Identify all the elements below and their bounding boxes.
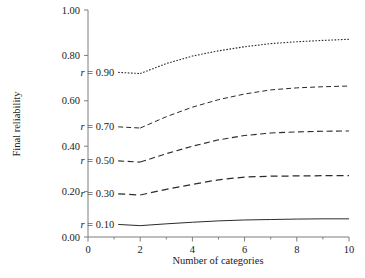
curve-r-0_5 bbox=[140, 131, 349, 162]
series-label-value: 0.70 bbox=[96, 121, 114, 132]
y-axis-title: Final reliability bbox=[11, 91, 22, 157]
series-label-equals: = bbox=[85, 219, 96, 230]
x-tick-label: 10 bbox=[344, 244, 355, 255]
y-tick-label: 0.40 bbox=[62, 141, 80, 152]
y-tick-label: 0.60 bbox=[62, 95, 80, 106]
x-axis-tick-labels: 0246810 bbox=[85, 244, 354, 255]
series-label-equals: = bbox=[85, 155, 96, 166]
y-tick-label: 0.80 bbox=[62, 50, 80, 61]
series-label-r-0_5: r = 0.50 bbox=[81, 155, 115, 166]
y-tick-label: 1.00 bbox=[62, 5, 80, 16]
series-label-value: 0.90 bbox=[96, 67, 114, 78]
leader-line bbox=[118, 161, 140, 162]
series-label-equals: = bbox=[85, 188, 96, 199]
data-curves bbox=[140, 39, 349, 225]
series-label-value: 0.30 bbox=[96, 188, 114, 199]
x-axis-title: Number of categories bbox=[173, 255, 264, 266]
label-leader-lines bbox=[118, 72, 140, 225]
reliability-line-chart: 0.000.200.400.600.801.00 0246810 r = 0.9… bbox=[0, 0, 365, 278]
curve-r-0_7 bbox=[140, 86, 349, 128]
leader-line bbox=[118, 127, 140, 128]
series-label-r-0_1: r = 0.10 bbox=[81, 219, 115, 230]
leader-line bbox=[118, 72, 140, 73]
y-tick-label: 0.20 bbox=[62, 186, 80, 197]
curve-r-0_3 bbox=[140, 176, 349, 195]
x-tick-label: 8 bbox=[294, 244, 299, 255]
leader-line bbox=[118, 194, 140, 195]
y-axis-tick-labels: 0.000.200.400.600.801.00 bbox=[62, 5, 80, 243]
series-label-equals: = bbox=[85, 121, 96, 132]
x-tick-label: 4 bbox=[190, 244, 196, 255]
y-tick-label: 0.00 bbox=[62, 232, 80, 243]
x-tick-label: 2 bbox=[138, 244, 143, 255]
curve-r-0_9 bbox=[140, 39, 349, 73]
x-tick-label: 6 bbox=[242, 244, 247, 255]
series-label-value: 0.10 bbox=[96, 219, 114, 230]
series-label-r-0_9: r = 0.90 bbox=[81, 67, 115, 78]
figure-container: 0.000.200.400.600.801.00 0246810 r = 0.9… bbox=[0, 0, 365, 278]
series-label-r-0_3: r = 0.30 bbox=[81, 188, 115, 199]
series-label-value: 0.50 bbox=[96, 155, 114, 166]
series-inline-labels: r = 0.90r = 0.70r = 0.50r = 0.30r = 0.10 bbox=[81, 67, 115, 230]
curve-r-0_1 bbox=[140, 219, 349, 226]
leader-line bbox=[118, 224, 140, 225]
series-label-r-0_7: r = 0.70 bbox=[81, 121, 115, 132]
series-label-equals: = bbox=[85, 67, 96, 78]
x-tick-label: 0 bbox=[85, 244, 90, 255]
